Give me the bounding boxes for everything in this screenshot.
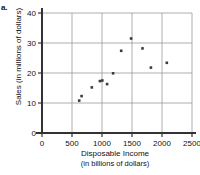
y-axis-tick-label: 20 (27, 69, 36, 78)
data-point (101, 79, 104, 82)
x-axis-tick-label: 2000 (153, 139, 171, 148)
data-point (99, 80, 102, 83)
y-axis-title: Sales (in millions of dollars) (14, 0, 23, 117)
x-axis-tick-label: 1000 (93, 139, 111, 148)
x-axis-tick-label: 0 (40, 139, 45, 148)
data-point (78, 99, 81, 102)
data-point (91, 86, 94, 89)
plot-area: 01020304005001000150020002500 (0, 0, 200, 150)
data-point (130, 37, 133, 40)
x-axis-title-line2: (in billions of dollars) (30, 159, 200, 169)
scatter-plot-figure: a. Sales (in millions of dollars) Dispos… (0, 0, 200, 175)
y-axis-tick-label: 0 (32, 129, 37, 138)
data-point (80, 95, 83, 98)
data-point (112, 72, 115, 75)
y-axis-tick-label: 40 (27, 9, 36, 18)
y-axis-tick-label: 30 (27, 39, 36, 48)
x-axis-tick-label: 2500 (183, 139, 200, 148)
x-axis-title-line1: Disposable Income (81, 149, 149, 158)
data-point (150, 66, 153, 69)
y-axis-tick-label: 10 (27, 99, 36, 108)
part-label: a. (1, 3, 7, 12)
x-axis-tick-label: 1500 (123, 139, 141, 148)
x-axis-tick-label: 500 (65, 139, 79, 148)
data-point (141, 47, 144, 50)
data-point (166, 62, 169, 65)
data-point (120, 50, 123, 53)
data-point (106, 83, 109, 86)
x-axis-title: Disposable Income (in billions of dollar… (30, 149, 200, 169)
